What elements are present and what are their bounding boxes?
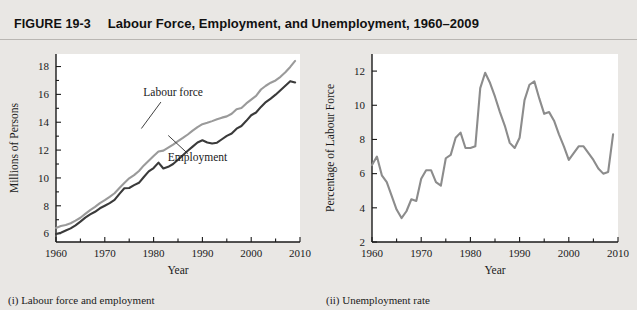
figure-number: FIGURE 19-3 xyxy=(14,17,91,31)
y-tick-label: 6 xyxy=(360,167,366,179)
x-tick-label: 1970 xyxy=(410,247,433,259)
x-tick-label: 2010 xyxy=(289,247,312,259)
x-axis-title: Year xyxy=(167,264,188,276)
series-annotation: Labour force xyxy=(143,86,203,98)
y-axis-title: Millions of Persons xyxy=(8,102,20,193)
x-tick-label: 1960 xyxy=(45,247,68,259)
y-tick-label: 2 xyxy=(360,236,366,248)
x-tick-label: 1990 xyxy=(509,247,531,259)
chart-panel-unemployment-rate: 24681012196019701980199020002010YearPerc… xyxy=(318,40,637,310)
chart-panel-labour-force-employment: 681012141618196019701980199020002010Year… xyxy=(0,40,318,310)
y-tick-label: 6 xyxy=(44,227,50,239)
figure-header: FIGURE 19-3 Labour Force, Employment, an… xyxy=(0,0,637,40)
x-tick-label: 2000 xyxy=(558,247,581,259)
figure-title: Labour Force, Employment, and Unemployme… xyxy=(108,16,479,31)
caption-unemployment-rate: (ii) Unemployment rate xyxy=(326,294,430,306)
x-tick-label: 1980 xyxy=(143,247,166,259)
x-tick-label: 1990 xyxy=(191,247,214,259)
y-tick-label: 10 xyxy=(38,172,50,184)
unemployment-rate-chart: 24681012196019701980199020002010YearPerc… xyxy=(318,40,637,288)
y-axis-title: Percentage of Labour Force xyxy=(324,84,337,212)
caption-labour-force-employment: (i) Labour force and employment xyxy=(8,294,155,306)
x-tick-label: 2000 xyxy=(240,247,263,259)
x-tick-label: 1960 xyxy=(361,247,384,259)
y-tick-label: 4 xyxy=(360,202,366,214)
x-tick-label: 1980 xyxy=(459,247,482,259)
y-tick-label: 16 xyxy=(38,88,50,100)
y-tick-label: 14 xyxy=(38,116,50,128)
y-tick-label: 12 xyxy=(354,65,365,77)
y-tick-label: 18 xyxy=(38,60,50,72)
x-axis-title: Year xyxy=(484,264,505,276)
labour-force-employment-chart: 681012141618196019701980199020002010Year… xyxy=(0,40,318,288)
y-tick-label: 12 xyxy=(38,144,49,156)
y-tick-label: 8 xyxy=(44,200,50,212)
plot-area-background xyxy=(372,54,618,242)
series-annotation: Employment xyxy=(168,151,228,164)
x-tick-label: 1970 xyxy=(94,247,117,259)
y-tick-label: 10 xyxy=(354,99,366,111)
y-tick-label: 8 xyxy=(360,133,366,145)
x-tick-label: 2010 xyxy=(607,247,630,259)
